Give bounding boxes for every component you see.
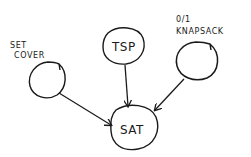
- edge-set-cover-to-sat: [59, 93, 111, 125]
- reduction-diagram: SET COVER TSP 0/1 KNAPSACK SAT: [0, 0, 251, 157]
- knapsack-circle: [176, 42, 217, 80]
- node-set-cover: SET COVER: [10, 41, 65, 98]
- node-tsp: TSP: [103, 28, 144, 64]
- edge-knapsack-to-sat: [155, 79, 184, 110]
- knapsack-label-line2: KNAPSACK: [176, 27, 224, 36]
- sat-text: SAT: [120, 123, 144, 137]
- knapsack-label-line1: 0/1: [176, 15, 191, 24]
- node-knapsack: 0/1 KNAPSACK: [176, 15, 224, 80]
- node-sat: SAT: [111, 105, 158, 149]
- set-cover-circle: [29, 62, 65, 98]
- set-cover-label-line1: SET: [10, 41, 27, 50]
- edge-tsp-to-sat: [125, 65, 128, 106]
- diagram-canvas: SET COVER TSP 0/1 KNAPSACK SAT: [0, 0, 251, 157]
- tsp-text: TSP: [111, 40, 136, 54]
- set-cover-label-line2: COVER: [14, 51, 45, 60]
